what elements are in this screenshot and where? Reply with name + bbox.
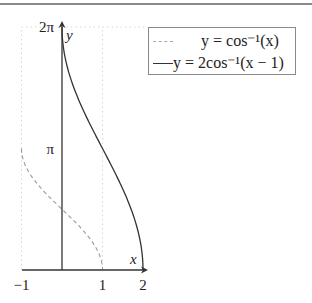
axes — [22, 21, 148, 274]
x-tick-label: −1 — [14, 277, 30, 293]
legend-label: y = cos⁻¹(x) — [201, 31, 279, 50]
legend-entry-arccos: y = cos⁻¹(x) — [149, 30, 295, 52]
legend-dashed-line-icon — [153, 41, 173, 42]
x-tick-label: 1 — [99, 277, 107, 293]
x-tick-label: 2 — [139, 277, 147, 293]
curves — [22, 27, 144, 270]
legend-label: y = 2cos⁻¹(x − 1) — [173, 53, 284, 72]
x-axis-label: x — [129, 251, 137, 267]
grid — [22, 27, 149, 270]
legend-entry-2arccos: y = 2cos⁻¹(x − 1) — [149, 52, 295, 74]
legend-solid-line-icon — [153, 63, 173, 64]
y-tick-label: 2π — [39, 19, 55, 35]
tick-labels: −112π2π — [14, 19, 147, 293]
y-axis-label: y — [64, 27, 73, 43]
y-tick-label: π — [46, 141, 54, 157]
legend: y = cos⁻¹(x) y = 2cos⁻¹(x − 1) — [148, 27, 296, 75]
